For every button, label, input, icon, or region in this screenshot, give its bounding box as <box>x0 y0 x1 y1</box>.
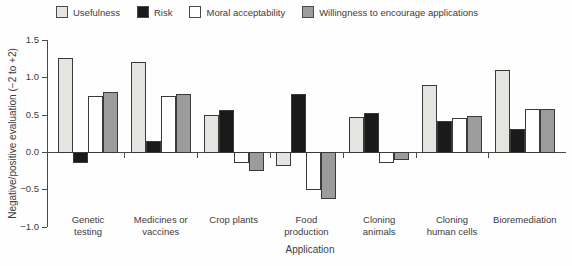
bar <box>364 113 379 153</box>
bar <box>249 152 264 171</box>
bar <box>176 94 191 153</box>
bar <box>161 96 176 153</box>
legend: UsefulnessRiskMoral acceptabilityWilling… <box>56 6 478 18</box>
bar <box>276 152 291 166</box>
legend-swatch-icon <box>56 6 68 18</box>
x-separator-tick <box>197 152 198 158</box>
bar <box>103 92 118 153</box>
y-axis-line <box>47 40 48 227</box>
y-tick <box>42 77 47 78</box>
y-tick <box>42 189 47 190</box>
bar <box>452 118 467 153</box>
x-separator-tick <box>270 152 271 158</box>
bar <box>146 141 161 153</box>
bar <box>510 129 525 153</box>
x-separator-tick <box>343 152 344 158</box>
y-tick-label: 1.0 <box>9 71 39 82</box>
y-tick <box>42 115 47 116</box>
bar <box>349 117 364 153</box>
y-tick-label: 0.0 <box>9 146 39 157</box>
bar <box>204 115 219 153</box>
legend-item: Risk <box>137 6 172 18</box>
x-category-label: Medicines or vaccines <box>119 214 203 238</box>
bar <box>525 109 540 153</box>
bar <box>540 109 555 153</box>
bar <box>379 152 394 163</box>
y-tick-label: −1.0 <box>9 221 39 232</box>
x-axis-title: Application <box>250 244 370 255</box>
bar <box>131 62 146 153</box>
bar <box>88 96 103 153</box>
x-category-label: Cloning animals <box>337 214 421 238</box>
legend-label: Usefulness <box>73 7 120 18</box>
y-tick <box>42 152 47 153</box>
bar <box>291 94 306 153</box>
bar <box>437 121 452 153</box>
legend-swatch-icon <box>137 6 149 18</box>
legend-label: Risk <box>154 7 172 18</box>
x-category-label: Crop plants <box>192 214 276 226</box>
bar <box>422 85 437 153</box>
bar <box>58 58 73 153</box>
y-tick-label: −0.5 <box>9 183 39 194</box>
y-tick-label: 0.5 <box>9 109 39 120</box>
bar <box>321 152 336 199</box>
x-category-label: Genetic testing <box>46 214 130 238</box>
legend-label: Willingness to encourage applications <box>319 7 478 18</box>
legend-item: Willingness to encourage applications <box>302 6 478 18</box>
legend-item: Usefulness <box>56 6 120 18</box>
bar <box>219 110 234 153</box>
bar <box>234 152 249 163</box>
bar <box>73 152 88 163</box>
legend-item: Moral acceptability <box>189 6 285 18</box>
legend-swatch-icon <box>189 6 201 18</box>
x-separator-tick <box>124 152 125 158</box>
grouped-bar-chart: UsefulnessRiskMoral acceptabilityWilling… <box>0 0 572 266</box>
bar <box>467 116 482 153</box>
x-separator-tick <box>416 152 417 158</box>
y-tick-label: 1.5 <box>9 34 39 45</box>
bar <box>306 152 321 190</box>
bar <box>394 152 409 160</box>
x-category-label: Bioremediation <box>483 214 567 226</box>
legend-swatch-icon <box>302 6 314 18</box>
y-tick <box>42 40 47 41</box>
y-axis-title: Negative/positive evaluation (−2 to +2) <box>7 34 18 234</box>
legend-label: Moral acceptability <box>206 7 285 18</box>
x-category-label: Cloning human cells <box>410 214 494 238</box>
bar <box>495 70 510 153</box>
x-separator-tick <box>488 152 489 158</box>
x-category-label: Food production <box>264 214 348 238</box>
